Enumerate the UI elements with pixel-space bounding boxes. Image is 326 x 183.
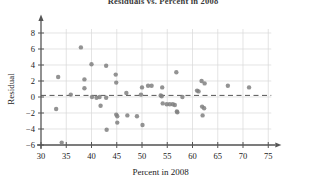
data-point — [202, 81, 206, 85]
y-tick-label: 2 — [31, 76, 35, 86]
y-tick-label: 6 — [31, 44, 35, 54]
x-tick-label: 35 — [62, 151, 71, 161]
data-point — [159, 94, 163, 98]
data-point — [79, 45, 83, 49]
data-point — [160, 85, 164, 89]
data-point — [54, 107, 58, 111]
data-point — [115, 120, 119, 124]
data-point — [114, 72, 118, 76]
data-point — [104, 64, 108, 68]
data-point — [180, 95, 184, 99]
grid-lines — [41, 29, 271, 145]
data-point — [161, 101, 165, 105]
data-point — [104, 96, 108, 100]
data-point — [82, 77, 86, 81]
data-point — [196, 89, 200, 93]
y-tick-label: −6 — [26, 140, 35, 150]
data-point — [82, 86, 86, 90]
y-tick-label: 8 — [31, 28, 35, 38]
data-point — [139, 92, 143, 96]
y-axis-title: Residual — [6, 73, 16, 105]
data-point — [149, 84, 153, 88]
y-tick-label: −2 — [26, 108, 35, 118]
y-tick-label: −4 — [26, 124, 36, 134]
y-tick-label: 0 — [31, 92, 35, 102]
data-point — [174, 70, 178, 74]
residual-scatter-chart: Residuals vs. Percent in 2008 3035404550… — [0, 0, 326, 183]
data-point — [69, 92, 73, 96]
data-point — [60, 140, 64, 144]
x-tick-label: 50 — [138, 151, 147, 161]
x-tick-label: 40 — [87, 151, 96, 161]
data-point — [200, 113, 204, 117]
x-tick-label: 60 — [188, 151, 197, 161]
data-point — [124, 91, 128, 95]
x-tick-label: 55 — [163, 151, 172, 161]
data-point — [97, 95, 101, 99]
x-tick-label: 65 — [214, 151, 223, 161]
data-point — [247, 85, 251, 89]
x-tick-label: 75 — [264, 151, 273, 161]
x-tick-label: 45 — [113, 151, 122, 161]
x-tick-label: 30 — [37, 151, 46, 161]
data-point — [226, 84, 230, 88]
data-point — [202, 106, 206, 110]
data-point — [56, 75, 60, 79]
data-point — [115, 114, 119, 118]
data-point — [89, 62, 93, 66]
data-point — [104, 128, 108, 132]
y-tick-label: 4 — [31, 60, 36, 70]
x-tick-label: 70 — [239, 151, 248, 161]
data-point — [175, 110, 179, 114]
data-point — [140, 123, 144, 127]
data-point — [140, 85, 144, 89]
data-point — [135, 114, 139, 118]
x-axis-title: Percent in 2008 — [132, 167, 189, 177]
data-point — [98, 104, 102, 108]
data-point — [173, 103, 177, 107]
data-point — [125, 113, 129, 117]
scatter-plot-canvas: 30354045505560657075−6−4−202468Percent i… — [0, 0, 326, 183]
data-point — [114, 80, 118, 84]
data-point — [90, 95, 94, 99]
